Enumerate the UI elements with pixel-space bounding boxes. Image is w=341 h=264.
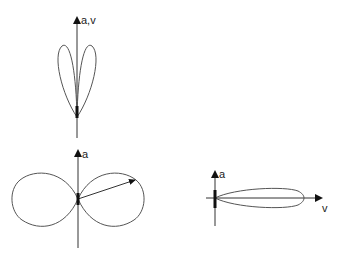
lobe-left [58,45,77,117]
lobe-left [12,173,78,226]
charge [214,190,217,208]
lobe-right [78,173,144,226]
axis-label-v: v [322,202,328,214]
charge [76,106,79,118]
figure-top: a,v [58,14,96,138]
axis-label-av: a,v [81,14,96,26]
lobe-right [77,45,96,117]
figure-bottom-right: a v [206,168,328,226]
radius-arrow [78,180,135,199]
figure-bottom-left: a [12,148,144,248]
charge [77,193,80,205]
diagram: a,v a a v [0,0,341,264]
axis-label-a: a [219,168,226,180]
axis-label-a: a [82,148,89,160]
